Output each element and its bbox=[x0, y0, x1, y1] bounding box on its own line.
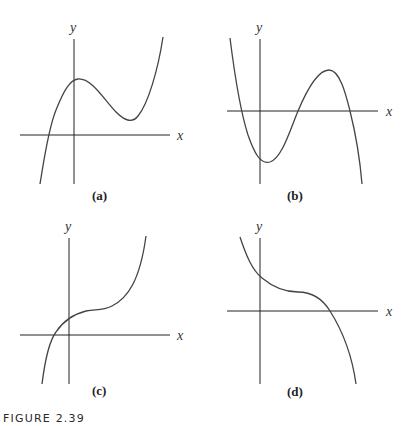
y-axis-label: y bbox=[254, 219, 263, 234]
figure-caption: FIGURE 2.39 bbox=[3, 412, 85, 425]
panel-label-a: (a) bbox=[92, 188, 107, 203]
figure-2-39: x y (a) x y (b) x y (c) x y (d) FIGURE 2… bbox=[0, 0, 411, 426]
curve-c bbox=[42, 236, 146, 384]
x-axis-label: x bbox=[176, 128, 184, 143]
x-axis-label: x bbox=[385, 304, 393, 319]
panel-d: x y (d) bbox=[227, 219, 393, 399]
curve-a bbox=[40, 37, 163, 184]
y-axis-label: y bbox=[254, 20, 263, 35]
y-axis-label: y bbox=[68, 20, 77, 35]
panel-b: x y (b) bbox=[227, 20, 393, 203]
y-axis-label: y bbox=[63, 219, 72, 234]
panel-label-b: (b) bbox=[287, 188, 303, 203]
panel-label-c: (c) bbox=[92, 383, 106, 398]
panel-a: x y (a) bbox=[20, 20, 184, 203]
panel-c: x y (c) bbox=[20, 219, 184, 398]
panel-label-d: (d) bbox=[287, 384, 303, 399]
x-axis-label: x bbox=[385, 104, 393, 119]
x-axis-label: x bbox=[176, 328, 184, 343]
